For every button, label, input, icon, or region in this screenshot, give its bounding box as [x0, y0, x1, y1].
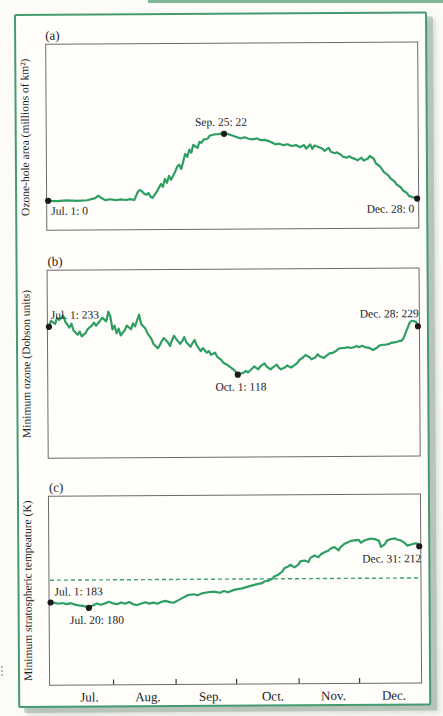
- month-label: Oct.: [262, 688, 284, 703]
- month-label: Aug.: [135, 689, 161, 704]
- chart-ozone-hole-area: Jul. 1: 0Sep. 25: 22Dec. 28: 0: [45, 42, 419, 231]
- ozone-hole-area-point-marker: [45, 198, 51, 204]
- ozone-hole-area-annotation: Jul. 1: 0: [51, 205, 88, 217]
- min-stratospheric-temperature-point-marker: [47, 599, 53, 605]
- chart-minimum-ozone: Jul. 1: 233Oct. 1: 118Dec. 28: 229: [47, 268, 421, 459]
- page-edge-artifact: [1, 666, 6, 676]
- minimum-ozone-annotation: Jul. 1: 233: [51, 308, 100, 320]
- temperature-threshold-dashed-line: [50, 578, 420, 580]
- ozone-hole-area-curve: [48, 132, 417, 201]
- ozone-hole-area-point-marker: [414, 195, 420, 201]
- minimum-ozone-point-marker: [46, 324, 52, 330]
- min-stratospheric-temperature-curve: [50, 538, 419, 607]
- min-stratospheric-temperature-point-marker: [416, 543, 422, 549]
- ozone-hole-area-annotation: Dec. 28: 0: [367, 203, 415, 215]
- chart-min-stratospheric-temperature: Jul. 1: 183Jul. 20: 180Dec. 31: 212Jul.A…: [48, 494, 422, 708]
- panel-c-label: (c): [49, 480, 64, 496]
- ozone-hole-area-annotation: Sep. 25: 22: [195, 116, 247, 129]
- scanned-book-page: { "figure": { "panels": [ {"label": "(a)…: [0, 0, 443, 716]
- panel-a-label: (a): [45, 28, 60, 44]
- minimum-ozone-annotation: Oct. 1: 118: [215, 380, 266, 392]
- ozone-hole-area-point-marker: [221, 131, 227, 137]
- min-stratospheric-temperature-annotation: Jul. 1: 183: [54, 585, 103, 597]
- min-stratospheric-temperature-annotation: Jul. 20: 180: [70, 614, 124, 626]
- min-stratospheric-temperature-annotation: Dec. 31: 212: [362, 552, 421, 564]
- month-label: Jul.: [80, 690, 99, 705]
- min-stratospheric-temperature-point-marker: [86, 605, 92, 611]
- minimum-ozone-plot-frame: [47, 268, 420, 458]
- panel-c-y-axis-title: Minimum stratospheric tempeature (K): [21, 494, 44, 688]
- panel-b-y-axis-title: Minimum ozone (Dobson units): [20, 270, 43, 459]
- panel-a-y-axis-title: Ozone-hole area (millions of km²): [18, 44, 41, 231]
- minimum-ozone-point-marker: [415, 323, 421, 329]
- minimum-ozone-point-marker: [235, 372, 241, 378]
- month-label: Nov.: [321, 688, 346, 703]
- month-label: Dec.: [382, 688, 406, 703]
- month-label: Sep.: [199, 689, 222, 704]
- panel-b-label: (b): [47, 254, 62, 270]
- minimum-ozone-annotation: Dec. 28: 229: [360, 307, 419, 319]
- figure-box: (a) Ozone-hole area (millions of km²) Ju…: [14, 11, 431, 708]
- adjacent-figure-edge: [148, 0, 443, 3]
